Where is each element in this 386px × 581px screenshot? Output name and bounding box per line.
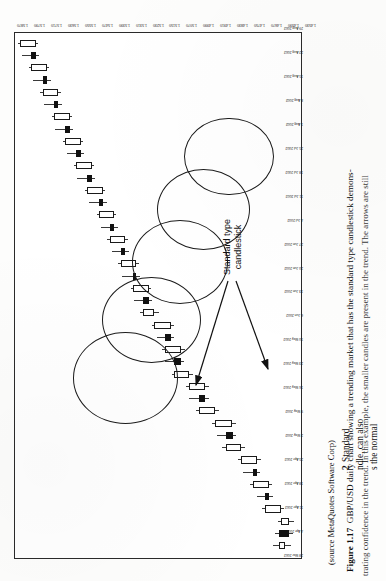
date-tick-label: 30 May 2002 <box>283 337 303 341</box>
candle-body-up <box>54 113 70 120</box>
date-tick-label: 15 Aug 2002 <box>284 74 303 78</box>
candle-body-up <box>279 542 285 549</box>
date-tick-label: 25 Jul 2002 <box>285 146 303 150</box>
price-tick-label: 1.5630 <box>68 23 79 27</box>
price-tick-label: 1.5790 <box>34 23 45 27</box>
candle-body-down <box>87 175 92 182</box>
figure-caption: Figure 1.17 GBP/USD daily chart showing … <box>345 169 355 572</box>
date-tick-label: 2 May 2002 <box>285 433 303 437</box>
date-tick-label: 4 Apr 2002 <box>287 529 303 533</box>
facing-page-line-2: ndle, can also <box>355 419 365 470</box>
candle-body-up <box>226 444 241 451</box>
candle-body-up <box>189 383 206 390</box>
candle-body-down <box>31 52 36 59</box>
price-tick-label: 1.5150 <box>169 23 180 27</box>
candle-body-up <box>65 138 81 145</box>
date-tick-label: 25 Apr 2002 <box>285 457 303 461</box>
candle-body-down <box>76 150 81 157</box>
price-tick-label: 1.5230 <box>153 23 164 27</box>
candle-body-down <box>65 126 70 133</box>
date-tick-label: 20 Jun 2002 <box>284 266 303 270</box>
date-tick-label: 11 Jul 2002 <box>286 194 303 198</box>
caption-source: (source MetaQuotes Software Corp) <box>326 440 336 565</box>
price-tick-label: 1.4910 <box>220 23 231 27</box>
candle-body-up <box>253 481 268 488</box>
candle-body-down <box>99 199 103 206</box>
price-tick-label: 1.5710 <box>51 23 62 27</box>
date-tick-label: 11 Apr 2002 <box>285 505 303 509</box>
candle-body-down <box>121 248 126 255</box>
candle-body-down <box>199 395 205 402</box>
date-tick-label: 4 Jul 2002 <box>287 218 303 222</box>
candle-body-up <box>87 187 103 194</box>
candle-body-up <box>76 162 92 169</box>
candle-wick <box>243 472 260 473</box>
date-tick-label: 13 Jun 2002 <box>284 290 303 294</box>
facing-page-line-3: s the normal <box>369 424 379 470</box>
facing-page-number: 2 <box>341 465 351 470</box>
candle-body-up <box>215 420 233 427</box>
candle-body-up <box>241 456 257 463</box>
date-tick-label: 6 Jun 2002 <box>286 313 303 317</box>
date-tick-label: 18 Apr 2002 <box>285 481 303 485</box>
date-tick-label: 8 Aug 2002 <box>286 98 303 102</box>
candlestick-chart-plot <box>14 32 302 559</box>
candle-body-up <box>199 407 214 414</box>
price-tick-label: 1.4990 <box>203 23 214 27</box>
price-tick-label: 1.5550 <box>85 23 96 27</box>
candle-body-up <box>31 64 47 71</box>
candle-body-down <box>226 432 233 439</box>
date-tick-label: 1 Aug 2002 <box>286 122 303 126</box>
candle-body-up <box>281 518 289 525</box>
figure-caption-line2: trating confidence in the trend. In this… <box>360 175 370 576</box>
candle-body-down <box>265 493 268 500</box>
date-tick-label: 23 May 2002 <box>283 361 303 365</box>
facing-page-line-1: Standard <box>341 429 351 462</box>
date-tick-label: 29 Aug 2002 <box>284 26 303 30</box>
price-tick-label: 1.5870 <box>17 23 28 27</box>
candle-body-up <box>43 89 59 96</box>
candle-body-up <box>265 505 280 512</box>
price-tick-label: 1.5310 <box>136 23 147 27</box>
price-tick-label: 1.4530 <box>305 23 316 27</box>
price-tick-label: 1.4830 <box>237 23 248 27</box>
price-tick-label: 1.4670 <box>271 23 282 27</box>
price-tick-label: 1.5470 <box>102 23 113 27</box>
date-tick-label: 22 Aug 2002 <box>284 50 303 54</box>
date-tick-label: 28 Mar 2002 <box>284 553 303 557</box>
candle-body-up <box>110 236 126 243</box>
candle-body-down <box>110 224 115 231</box>
price-tick-label: 1.5390 <box>119 23 130 27</box>
date-tick-label: 9 May 2002 <box>285 409 303 413</box>
price-tick-label: 1.5070 <box>186 23 197 27</box>
date-tick-label: 16 May 2002 <box>283 385 303 389</box>
candle-body-down <box>43 76 48 83</box>
date-tick-label: 27 Jun 2002 <box>284 242 303 246</box>
standard-candlestick-callout: Standard type candlestick <box>222 219 244 275</box>
candle-body-down <box>253 469 257 476</box>
date-tick-label: 18 Jul 2002 <box>285 170 303 174</box>
candle-body-up <box>99 211 114 218</box>
figure-caption-text: GBP/USD daily chart showing a trending m… <box>345 169 355 523</box>
candle-body-up <box>20 40 36 47</box>
price-tick-label: 1.4750 <box>254 23 265 27</box>
candle-body-down <box>54 101 59 108</box>
ellipse-annotation <box>184 118 273 196</box>
figure-number: Figure 1.17 <box>345 528 355 572</box>
price-axis: 1.58701.57901.57101.56301.55501.54701.53… <box>14 1 302 31</box>
scanned-book-page: GBPUSD,Daily 1.7148 1.7294 1.6920 1.7234… <box>0 0 386 581</box>
